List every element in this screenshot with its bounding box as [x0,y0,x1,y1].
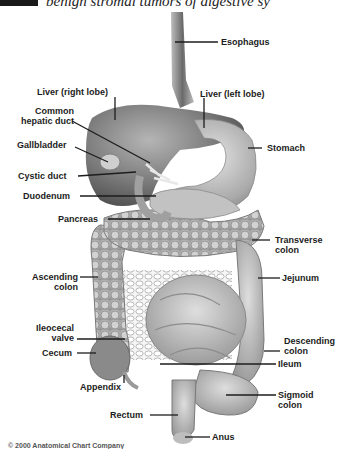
label-gallbladder: Gallbladder [17,140,67,150]
label-anus: Anus [212,432,235,442]
copyright-text: © 2000 Anatomical Chart Company [8,442,124,449]
label-transverse-colon: Transverse colon [275,235,323,255]
label-ileocecal-valve: Ileocecal valve [20,323,74,343]
appendix-shape [124,372,138,388]
label-descending-colon: Descending colon [284,336,335,356]
label-liver-right-lobe: Liver (right lobe) [37,87,108,97]
small-intestine-shape [146,275,246,365]
gallbladder-shape [100,154,120,170]
label-appendix: Appendix [80,382,121,392]
label-rectum: Rectum [110,410,143,420]
label-stomach: Stomach [267,143,305,153]
label-cecum: Cecum [42,348,72,358]
label-ascending-colon: Ascending colon [20,272,78,292]
anus-shape [173,432,193,444]
label-pancreas: Pancreas [58,214,98,224]
rectum-shape [172,380,196,440]
label-common-hepatic-duct: Common hepatic duct [12,106,74,126]
label-ileum: Ileum [278,359,302,369]
label-esophagus: Esophagus [221,37,270,47]
label-duodenum: Duodenum [23,191,70,201]
label-liver-left-lobe: Liver (left lobe) [200,89,265,99]
esophagus-shape [171,12,194,108]
label-jejunum: Jejunum [282,273,319,283]
label-sigmoid-colon: Sigmoid colon [278,390,314,410]
label-cystic-duct: Cystic duct [18,171,67,181]
